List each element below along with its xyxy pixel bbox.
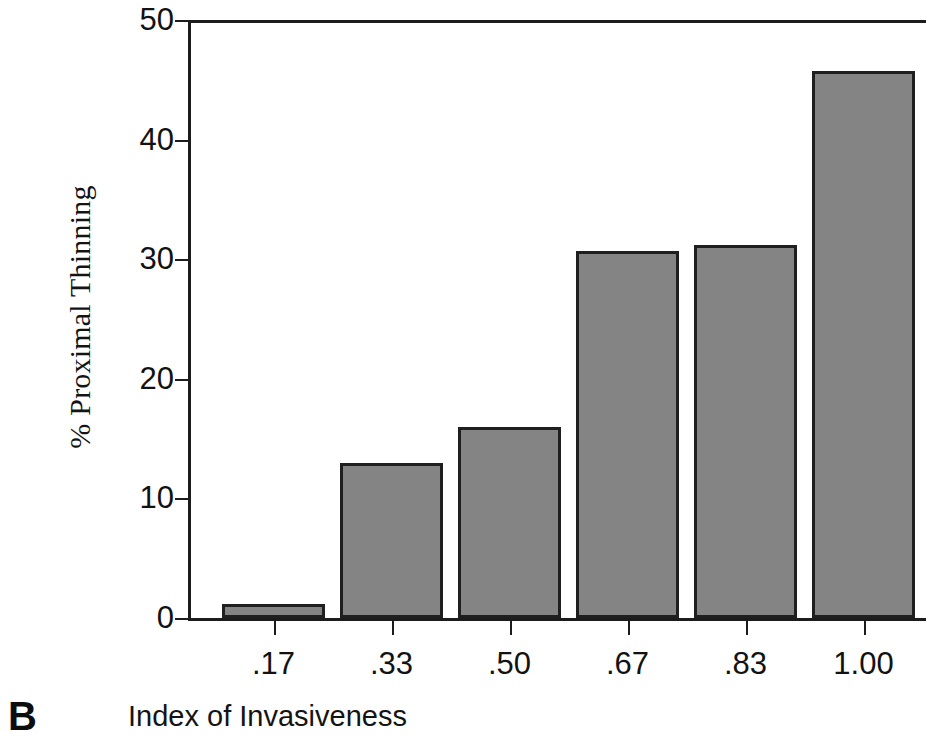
x-axis-tick xyxy=(628,621,630,635)
y-axis-title: % Proximal Thinning xyxy=(63,147,97,487)
bar xyxy=(812,71,915,618)
bar xyxy=(222,604,325,618)
y-axis-tick-label: 30 xyxy=(96,243,174,274)
y-axis-tick-label: 10 xyxy=(96,482,174,513)
y-axis-tick xyxy=(175,140,188,142)
x-axis-tick xyxy=(864,621,866,635)
plot-frame-top xyxy=(188,20,926,23)
x-axis-tick-label: .50 xyxy=(450,648,570,679)
x-axis-tick-label: .67 xyxy=(568,648,688,679)
panel-label: B xyxy=(8,694,37,739)
y-axis-tick-label: 40 xyxy=(96,124,174,155)
x-axis-tick xyxy=(510,621,512,635)
y-axis-tick xyxy=(175,498,188,500)
bar xyxy=(458,427,561,618)
y-axis-tick xyxy=(175,618,188,620)
x-axis-tick xyxy=(274,621,276,635)
x-axis-tick xyxy=(392,621,394,635)
x-axis-tick-label: .83 xyxy=(686,648,806,679)
bar xyxy=(694,245,797,618)
y-axis-tick-label: 0 xyxy=(96,602,174,633)
x-axis-tick-label: 1.00 xyxy=(804,648,924,679)
y-axis-tick-labels: 01020304050 xyxy=(96,0,174,751)
y-axis-tick-label: 50 xyxy=(96,4,174,35)
plot-frame-bottom-axis xyxy=(188,618,926,621)
bar xyxy=(576,251,679,618)
plot-area: .17.33.50.67.831.00 xyxy=(188,20,926,618)
x-axis-tick-label: .17 xyxy=(214,648,334,679)
y-axis-tick xyxy=(175,259,188,261)
y-axis-tick xyxy=(175,20,188,22)
x-axis-tick-label: .33 xyxy=(332,648,452,679)
y-axis-tick xyxy=(175,379,188,381)
x-axis-title: Index of Invasiveness xyxy=(128,700,407,733)
x-axis-tick xyxy=(746,621,748,635)
bar xyxy=(340,463,443,618)
plot-frame-left-axis xyxy=(188,20,191,621)
figure-panel-b: % Proximal Thinning 01020304050 .17.33.5… xyxy=(0,0,926,751)
y-axis-tick-label: 20 xyxy=(96,363,174,394)
